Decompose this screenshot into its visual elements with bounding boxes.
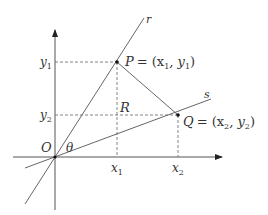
line-s-label: s <box>204 88 210 101</box>
point-p <box>115 60 119 64</box>
region-label: R <box>119 100 130 115</box>
origin-label: O <box>41 140 52 155</box>
line-s <box>25 99 211 168</box>
coordinate-diagram: O θ R r s P= (x1, y1) Q= (x2, y2) y1 y2 … <box>0 0 268 215</box>
point-q-label: Q= (x2, y2) <box>183 114 255 131</box>
tick-x1: x1 <box>111 161 123 177</box>
point-q <box>176 113 180 117</box>
line-r-label: r <box>146 13 152 26</box>
tick-x2: x2 <box>172 161 184 177</box>
tick-y1: y1 <box>39 55 52 71</box>
tick-y2: y2 <box>39 108 52 124</box>
point-p-label: P= (x1, y1) <box>124 54 195 71</box>
angle-label: θ <box>66 141 74 155</box>
point-origin <box>53 155 56 158</box>
